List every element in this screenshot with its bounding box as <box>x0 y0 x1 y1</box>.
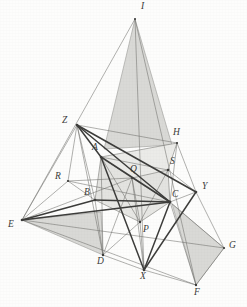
line-P-D <box>103 222 140 255</box>
dot-E <box>21 219 24 222</box>
point-label-X: X <box>140 272 146 282</box>
region-I-top-spire <box>104 19 172 149</box>
shaded-regions <box>22 19 224 285</box>
dot-Q <box>131 177 133 179</box>
point-label-Q: Q <box>130 165 137 175</box>
point-label-D: D <box>97 257 104 267</box>
dot-G <box>223 247 225 249</box>
point-label-F: F <box>194 288 200 298</box>
line-Z-R <box>68 125 77 181</box>
point-label-P: P <box>143 225 149 235</box>
dot-F <box>195 284 197 286</box>
geometry-canvas <box>0 0 247 307</box>
point-label-C: C <box>172 190 178 200</box>
dot-H <box>176 142 178 144</box>
dot-P <box>139 221 141 223</box>
line-Z-E <box>22 125 77 220</box>
point-label-I: I <box>141 2 144 12</box>
point-label-B: B <box>84 188 90 198</box>
point-label-E: E <box>8 220 14 230</box>
dot-Z <box>76 124 79 127</box>
point-label-A: A <box>92 143 98 153</box>
point-label-Y: Y <box>202 182 207 192</box>
dot-S <box>167 169 170 172</box>
point-label-R: R <box>55 172 61 182</box>
line-E-F <box>22 220 196 285</box>
dot-Y <box>195 191 198 194</box>
point-label-S: S <box>170 157 175 167</box>
line-X-F <box>144 270 196 285</box>
dot-B <box>94 199 97 202</box>
line-D-X <box>103 255 144 270</box>
dot-C <box>169 201 172 204</box>
point-label-G: G <box>229 241 236 251</box>
dot-R <box>67 180 69 182</box>
dot-A <box>100 156 103 159</box>
geometry-figure: I Z A H S R Q Y B C E P G D X F <box>0 0 247 307</box>
point-label-Z: Z <box>62 116 67 126</box>
point-label-H: H <box>173 128 180 138</box>
dot-I <box>134 18 136 20</box>
